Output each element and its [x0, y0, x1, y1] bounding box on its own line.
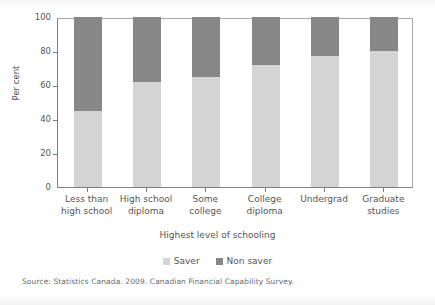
y-tick-mark: [53, 154, 57, 155]
legend-label: Non saver: [227, 256, 273, 266]
figure-container: Per cent Highest level of schooling Save…: [0, 0, 435, 305]
x-tick-mark: [205, 188, 206, 192]
bar-segment-saver: [133, 82, 161, 187]
bar-segment-non-saver: [192, 17, 220, 77]
x-tick-mark: [383, 188, 384, 192]
legend-swatch-icon: [163, 258, 170, 265]
x-tick-mark: [146, 188, 147, 192]
x-axis-title: Highest level of schooling: [0, 230, 435, 240]
x-tick-label-line: studies: [341, 206, 425, 218]
bar-segment-non-saver: [311, 17, 339, 56]
bars-container: [58, 19, 412, 187]
y-tick-label: 20: [4, 149, 51, 158]
legend-swatch-icon: [216, 258, 223, 265]
legend-item-saver: Saver: [163, 256, 200, 266]
bar-segment-non-saver: [370, 17, 398, 51]
y-tick-mark: [53, 86, 57, 87]
legend-item-non-saver: Non saver: [216, 256, 273, 266]
y-tick-mark: [53, 120, 57, 121]
x-tick-label: Graduatestudies: [341, 194, 425, 217]
legend-label: Saver: [174, 256, 200, 266]
plot-area: [57, 18, 413, 188]
bar-group: [192, 17, 220, 187]
bar-segment-non-saver: [252, 17, 280, 65]
bar-segment-saver: [311, 56, 339, 187]
x-tick-label-line: diploma: [223, 206, 307, 218]
y-tick-label: 60: [4, 81, 51, 90]
x-tick-label-line: Graduate: [341, 194, 425, 206]
bar-segment-saver: [370, 51, 398, 187]
y-tick-label: 80: [4, 47, 51, 56]
bar-group: [133, 17, 161, 187]
x-tick-mark: [324, 188, 325, 192]
bar-group: [252, 17, 280, 187]
bar-segment-saver: [252, 65, 280, 187]
bar-group: [311, 17, 339, 187]
bar-segment-non-saver: [74, 17, 102, 111]
bar-segment-non-saver: [133, 17, 161, 82]
bar-group: [370, 17, 398, 187]
y-tick-label: 100: [4, 13, 51, 22]
bar-segment-saver: [192, 77, 220, 188]
legend: SaverNon saver: [0, 256, 435, 266]
source-note: Source: Statistics Canada. 2009. Canadia…: [22, 277, 294, 286]
y-tick-label: 0: [4, 183, 51, 192]
x-tick-mark: [265, 188, 266, 192]
bar-group: [74, 17, 102, 187]
x-tick-mark: [87, 188, 88, 192]
bar-segment-saver: [74, 111, 102, 188]
y-tick-label: 40: [4, 115, 51, 124]
y-tick-mark: [53, 52, 57, 53]
